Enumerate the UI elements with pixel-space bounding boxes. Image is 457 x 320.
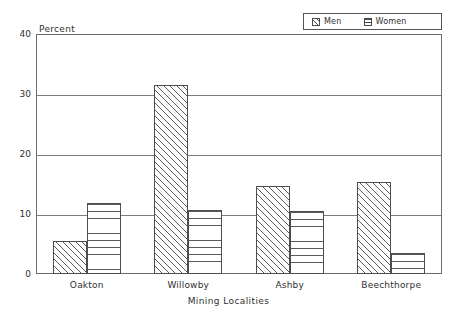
legend-label-women: Women [376,18,407,26]
bar-chart: Men Women Percent 40 30 20 10 0 OaktonWi… [0,0,457,320]
legend-item-men: Men [312,18,342,26]
chart-legend: Men Women [303,13,442,30]
x-axis-title: Mining Localities [0,296,457,306]
bar-ashby-women [290,211,324,274]
diagonal-hatch-swatch-icon [312,18,320,26]
bar-willowby-men [154,85,188,274]
x-tick-label-beechthorpe: Beechthorpe [361,280,421,290]
legend-item-women: Women [364,18,407,26]
bar-series-container [36,34,442,274]
bar-willowby-women [188,210,222,274]
bar-beechthorpe-women [391,253,425,274]
x-tick-label-willowby: Willowby [167,280,209,290]
x-tick-label-oakton: Oakton [70,280,104,290]
bar-oakton-men [53,241,87,274]
bar-beechthorpe-men [357,182,391,274]
bar-oakton-women [87,203,121,274]
x-tick-label-ashby: Ashby [275,280,304,290]
horizontal-lines-swatch-icon [364,18,372,26]
bar-ashby-men [256,186,290,274]
legend-label-men: Men [324,18,342,26]
y-axis-caption: Percent [39,24,75,34]
